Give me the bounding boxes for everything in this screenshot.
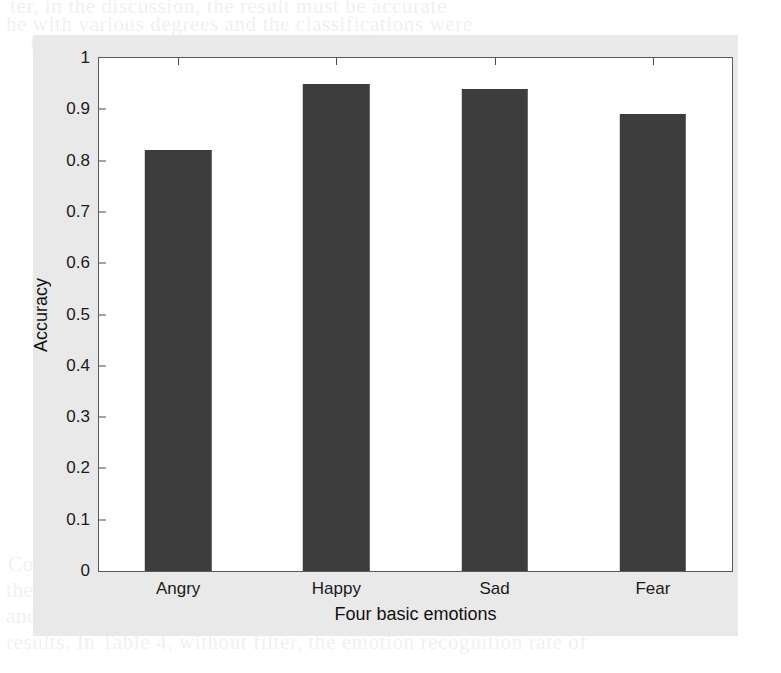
y-axis-tickmark	[99, 211, 106, 212]
x-axis-tick-label: Fear	[635, 579, 670, 599]
figure-panel: 00.10.20.30.40.50.60.70.80.91 AngryHappy…	[33, 35, 738, 636]
y-axis-tick-label: 0.9	[66, 99, 90, 119]
x-axis-tickmark-top	[653, 58, 654, 65]
bar-fear	[620, 114, 686, 571]
y-axis-tick-label: 0.3	[66, 407, 90, 427]
bar-happy	[303, 84, 369, 571]
x-axis-tick-label: Happy	[312, 579, 361, 599]
bleed-line: ter, in the discussion, the result must …	[10, 0, 447, 19]
y-axis-tick-label: 0.4	[66, 356, 90, 376]
x-axis-tickmark-top	[178, 58, 179, 65]
plot-area: 00.10.20.30.40.50.60.70.80.91 AngryHappy…	[98, 57, 733, 572]
y-axis-tickmark	[99, 519, 106, 520]
y-axis-tick-label: 0.2	[66, 458, 90, 478]
y-axis-tickmark	[99, 468, 106, 469]
y-axis-tick-label: 0.6	[66, 253, 90, 273]
x-axis-title: Four basic emotions	[334, 604, 496, 625]
y-axis-tick-label: 0.7	[66, 202, 90, 222]
y-axis-title: Accuracy	[31, 277, 52, 351]
y-axis-tick-label: 0.8	[66, 151, 90, 171]
y-axis-tickmark	[99, 263, 106, 264]
bar-sad	[461, 89, 527, 571]
y-axis-tick-label: 0	[81, 561, 90, 581]
x-axis-tickmark-top	[336, 58, 337, 65]
y-axis-tickmark	[99, 109, 106, 110]
x-axis-tickmark-top	[495, 58, 496, 65]
y-axis-tick-label: 0.5	[66, 305, 90, 325]
bleed-line: he with various degrees and the classifi…	[6, 12, 473, 37]
y-axis-tickmark	[99, 365, 106, 366]
y-axis-tickmark	[99, 160, 106, 161]
x-axis-tick-label: Sad	[480, 579, 510, 599]
bar-angry	[145, 150, 211, 571]
y-axis-tickmark	[99, 314, 106, 315]
y-axis-tickmark	[99, 417, 106, 418]
y-axis-tick-label: 1	[81, 48, 90, 68]
y-axis-tick-label: 0.1	[66, 510, 90, 530]
x-axis-tick-label: Angry	[156, 579, 200, 599]
